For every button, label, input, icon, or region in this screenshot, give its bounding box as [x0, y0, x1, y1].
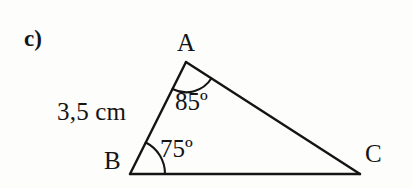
geometry-figure: c) A B C 85º 75º 3,5 cm [0, 0, 413, 188]
vertex-label-a: A [177, 30, 195, 55]
vertex-label-b: B [104, 148, 121, 173]
angle-label-a: 85º [175, 89, 208, 114]
angle-label-b: 75º [160, 136, 193, 161]
side-length-label-ab: 3,5 cm [57, 99, 126, 124]
vertex-label-c: C [365, 141, 382, 166]
item-label: c) [24, 27, 42, 50]
